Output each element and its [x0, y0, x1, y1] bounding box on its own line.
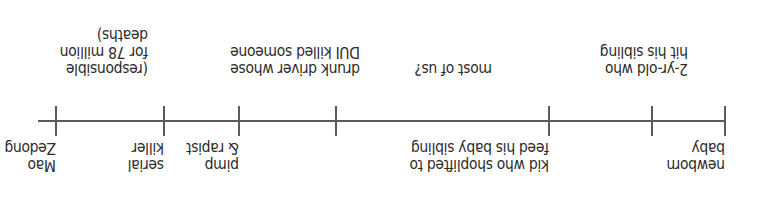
tick-most-of-us	[335, 106, 337, 136]
label-newborn-baby: newborn baby	[667, 139, 725, 173]
label-two-yr-old: 2-yr-old who hit his sibling	[558, 43, 688, 77]
tick-pimp-drunk-driver	[238, 106, 240, 136]
label-responsible-deaths: (responsible for 78 million deaths)	[28, 26, 148, 77]
label-kid-shoplifter: kid who shoplifted to feed his baby sibl…	[410, 139, 549, 173]
tick-newborn	[724, 106, 726, 136]
tick-serial-killer	[163, 106, 165, 136]
tick-kid-shoplifter	[548, 106, 550, 136]
tick-two-yr-old	[651, 106, 653, 136]
label-serial-killer: serial killer	[128, 139, 164, 173]
label-drunk-driver: drunk driver whose DUI killed someone	[190, 43, 360, 77]
label-mao-zedong: Mao Zedong	[5, 139, 56, 173]
label-pimp-rapist: pimp & rapist	[186, 139, 239, 173]
tick-mao	[55, 106, 57, 136]
moral-scale-diagram: newborn baby kid who shoplifted to feed …	[0, 0, 758, 215]
number-line	[38, 120, 725, 122]
label-most-of-us: most of us?	[415, 60, 492, 77]
